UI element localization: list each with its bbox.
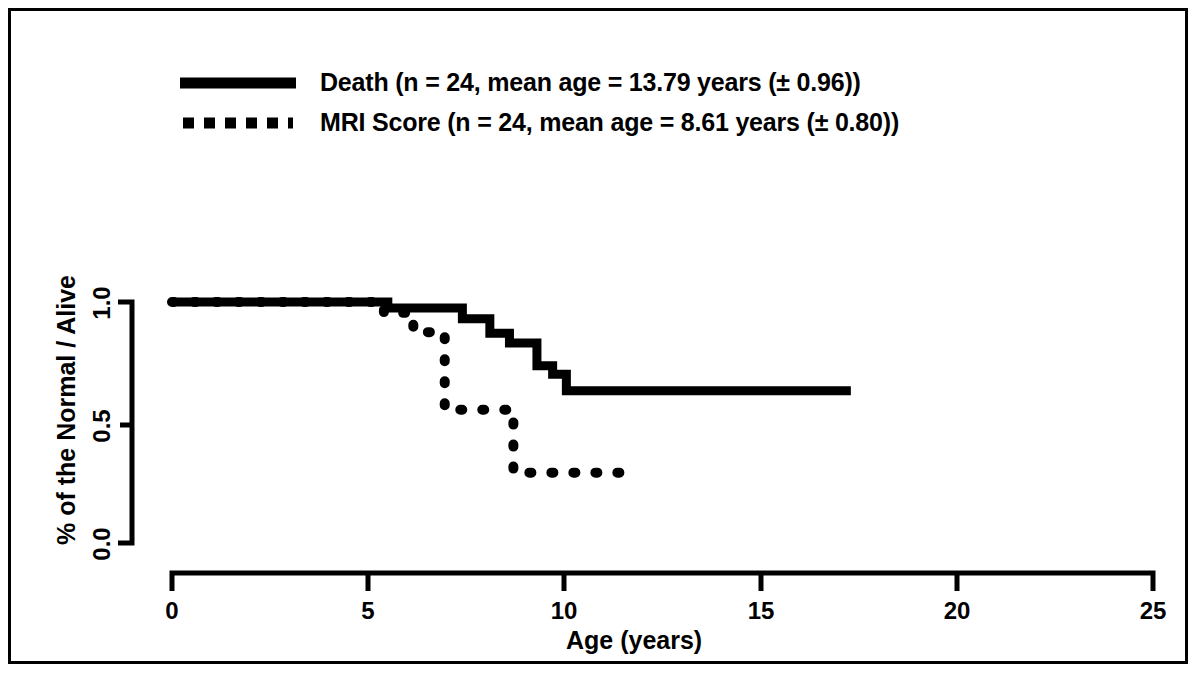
- x-tick-label-4: 20: [930, 597, 984, 625]
- x-tick-label-2: 10: [537, 597, 591, 625]
- y-tick-label-1: 0.5: [88, 397, 116, 455]
- y-axis-title: % of the Normal / Alive: [52, 275, 81, 545]
- y-tick-label-0: 0.0: [88, 515, 116, 573]
- x-axis-title: Age (years): [566, 626, 702, 655]
- y-axis: [118, 302, 132, 543]
- y-tick-label-2: 1.0: [88, 274, 116, 332]
- x-tick-label-1: 5: [348, 597, 388, 625]
- plot-area: [0, 0, 1199, 675]
- figure-canvas: Death (n = 24, mean age = 13.79 years (±…: [0, 0, 1199, 675]
- x-axis: [172, 573, 1153, 591]
- x-tick-label-0: 0: [152, 597, 192, 625]
- series-line-death: [172, 302, 851, 391]
- x-tick-label-5: 25: [1126, 597, 1180, 625]
- x-tick-label-3: 15: [734, 597, 788, 625]
